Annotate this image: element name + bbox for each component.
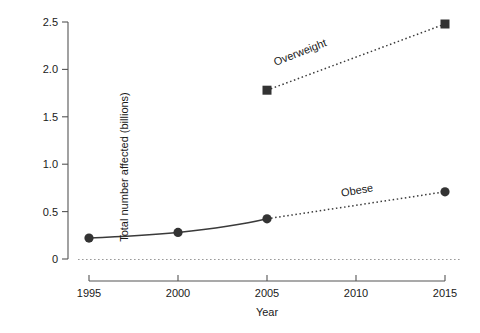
x-tick-label-2010: 2010 — [344, 288, 368, 299]
y-tick-label-0_5: 0.5 — [30, 206, 58, 217]
x-tick-label-2015: 2015 — [433, 288, 457, 299]
series-obese-marker-2005 — [262, 214, 271, 223]
y-tick-label-0: 0 — [30, 254, 58, 265]
y-tick-label-1_5: 1.5 — [30, 111, 58, 122]
x-tick-label-1995: 1995 — [77, 288, 101, 299]
series-obese-marker-2015 — [440, 187, 449, 196]
series-overweight-marker-2005 — [263, 86, 272, 95]
series-obese-marker-2000 — [173, 228, 182, 237]
y-tick-label-2_0: 2.0 — [30, 64, 58, 75]
y-axis-title: Total number affected (billions) — [118, 47, 130, 287]
x-tick-label-2000: 2000 — [166, 288, 190, 299]
y-tick-label-1_0: 1.0 — [30, 159, 58, 170]
x-tick-label-2005: 2005 — [255, 288, 279, 299]
y-tick-label-2_5: 2.5 — [30, 17, 58, 28]
series-obese-marker-1995 — [84, 234, 93, 243]
chart-container: 2.5 2.0 1.5 1.0 0.5 0 1995 2000 2005 201… — [0, 0, 480, 333]
y-axis-title-text: Total number affected (billions) — [118, 47, 130, 287]
x-axis-title: Year — [256, 306, 278, 318]
series-overweight-marker-2015 — [441, 20, 450, 29]
plot-area — [0, 0, 480, 333]
